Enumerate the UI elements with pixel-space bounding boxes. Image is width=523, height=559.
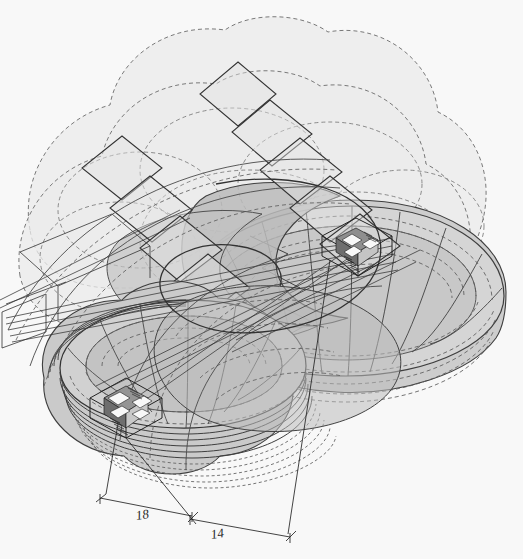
axonometric-drawing: 18 14	[0, 0, 523, 559]
scan-grain-overlay	[0, 0, 523, 559]
drawing-canvas: 18 14	[0, 0, 523, 559]
